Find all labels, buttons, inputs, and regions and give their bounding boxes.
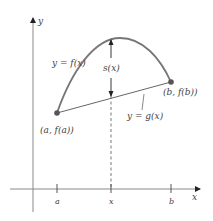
point-a-label: (a, f(a)) (40, 125, 74, 135)
point-b-marker (168, 79, 174, 85)
secant-line-diagram: y x a x b s(x) y = f(x) y = g(x) (a, f(a… (0, 0, 213, 221)
tick-label-x: x (109, 197, 114, 206)
tick-label-a: a (55, 197, 60, 206)
s-label: s(x) (103, 63, 120, 73)
y-axis-label: y (37, 16, 44, 26)
line-label: y = g(x) (126, 111, 164, 121)
point-b-label: (b, f(b)) (163, 87, 198, 97)
x-axis-label: x (192, 192, 197, 202)
tick-label-b: b (169, 197, 174, 206)
curve-f (57, 38, 171, 113)
secant-line-g (57, 82, 171, 113)
point-a-marker (54, 110, 60, 116)
curve-label: y = f(x) (51, 58, 86, 68)
line-label-leader (142, 94, 144, 110)
